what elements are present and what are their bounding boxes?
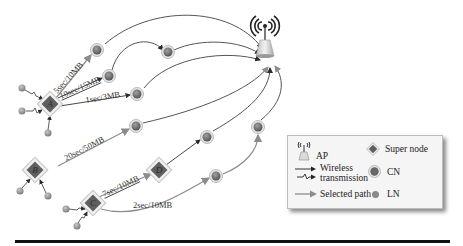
edge-label-a-1sec: 1sec/3MB xyxy=(85,89,121,105)
legend-label-wireless-1: Wireless xyxy=(320,163,368,173)
bottom-rule-divider xyxy=(15,240,450,243)
cn-node xyxy=(252,121,265,134)
super-node-letter: C xyxy=(90,198,97,208)
cn-node xyxy=(201,131,214,144)
ln-node xyxy=(74,223,81,230)
super-node-letter: D xyxy=(155,165,163,175)
cn-node xyxy=(210,170,223,183)
cn-node xyxy=(91,44,104,57)
cn-node xyxy=(131,88,144,101)
legend-label-cn: CN xyxy=(387,167,400,177)
ln-node xyxy=(19,85,26,92)
legend-item-selected-path: Selected path xyxy=(294,189,371,199)
legend-label-ln: LN xyxy=(387,189,400,199)
cn-node xyxy=(130,120,143,133)
ap-icon xyxy=(296,141,312,161)
access-point-icon xyxy=(251,16,280,58)
legend: AP Super node Wireless transmission xyxy=(287,135,443,209)
edge-label-b-20sec: 20sec/50MB xyxy=(62,134,106,163)
legend-item-ln: LN xyxy=(371,189,400,199)
ln-node xyxy=(17,188,24,195)
ln-node xyxy=(45,130,52,137)
ap-links xyxy=(105,15,281,131)
legend-label-ap: AP xyxy=(316,151,328,161)
selected-path-icon xyxy=(294,189,318,199)
wireless-transmission-icon xyxy=(294,164,318,182)
cn-icon xyxy=(368,165,381,178)
legend-label-super-node: Super node xyxy=(385,144,428,154)
legend-item-cn: CN xyxy=(368,165,400,178)
super-node-d: D xyxy=(146,157,171,182)
legend-label-wireless-2: transmission xyxy=(320,173,368,183)
ln-icon xyxy=(371,190,380,199)
ln-node xyxy=(63,206,70,213)
figure: 5sec/10MB 10sec/15MB 1sec/3MB 20sec/50MB… xyxy=(0,0,463,246)
super-node-letter: A xyxy=(46,99,53,109)
edge-label-c-2sec: 2sec/10MB xyxy=(133,200,173,210)
legend-item-wireless: Wireless transmission xyxy=(294,163,368,183)
super-node-b: B xyxy=(22,157,47,182)
legend-item-ap: AP xyxy=(296,141,328,161)
legend-label-selected-path: Selected path xyxy=(320,189,371,199)
network-diagram: 5sec/10MB 10sec/15MB 1sec/3MB 20sec/50MB… xyxy=(0,0,463,246)
super-node-letter: B xyxy=(32,165,38,175)
ln-node xyxy=(19,108,26,115)
edge-label-c-7sec: 7sec/10MB xyxy=(101,173,141,199)
cn-node xyxy=(103,70,116,83)
ln-node xyxy=(45,193,52,200)
cn-node xyxy=(162,46,175,59)
legend-item-super-node: Super node xyxy=(366,142,428,156)
super-node-icon xyxy=(366,142,380,156)
